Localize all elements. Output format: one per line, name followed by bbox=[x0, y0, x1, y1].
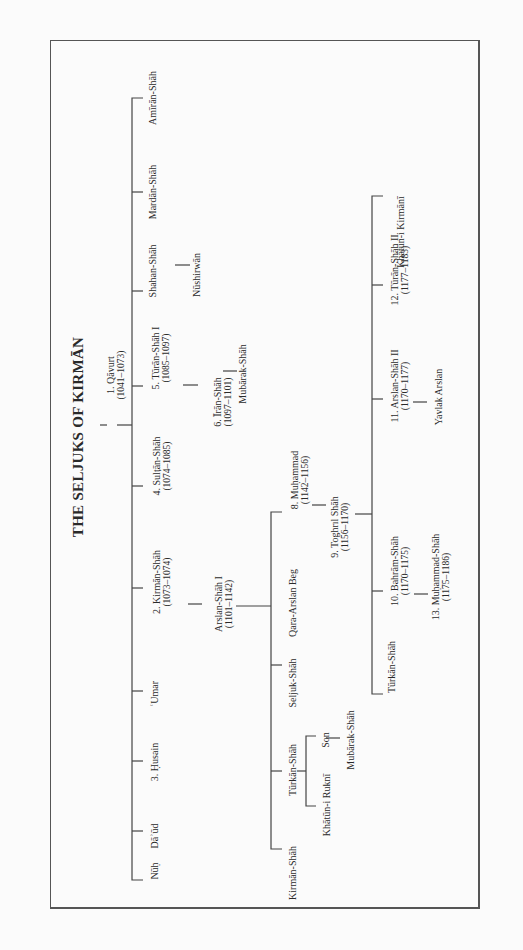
node-dates: (1101–1142) bbox=[224, 576, 235, 632]
node-name: Tūrkān-Shāh bbox=[287, 744, 298, 796]
node-name: Yavlak Arslan bbox=[433, 369, 444, 425]
node-dates: (1170–1177) bbox=[400, 349, 411, 422]
node-dates: (1073–1074) bbox=[162, 550, 173, 614]
node-name: Kirmān-Shāh bbox=[287, 846, 298, 900]
node-name: Khātūn-i Ruknī bbox=[321, 774, 332, 837]
node-dates: (1175–1186) bbox=[441, 534, 452, 621]
node-name: Dāʾūd bbox=[149, 824, 160, 849]
node-name: 9. Toghrıl Shāh bbox=[329, 496, 340, 558]
node-name: Mardān-Shāh bbox=[147, 165, 158, 219]
node-dates: (1085–1097) bbox=[161, 327, 172, 390]
node-name: Qara-Arslan Beg bbox=[287, 569, 298, 637]
node-name: Tūrkān-Shāh bbox=[386, 641, 397, 693]
node-name: Nūshirwān bbox=[191, 253, 202, 297]
node-name: Amīrān-Shāh bbox=[147, 71, 158, 125]
node-name: 10. Bahrām-Shāh bbox=[389, 536, 400, 606]
node-name: 2. Kirmān-Shāh bbox=[151, 550, 162, 614]
node-name: Shahan-Shāh bbox=[147, 245, 158, 298]
node-name: 5. Tūrān-Shāh I bbox=[150, 327, 161, 390]
node-dates: (1170–1175) bbox=[400, 536, 411, 606]
node-dates: (1142–1156) bbox=[300, 451, 311, 509]
node-dates: (1074–1085) bbox=[162, 437, 173, 496]
node-name: Seljuk-Shāh bbox=[287, 659, 298, 708]
node-name: 12. Tūrān-Shāh II bbox=[389, 234, 400, 305]
node-dates: (1177–1183) bbox=[400, 234, 411, 305]
node-name: 4. Sulṭān-Shāh bbox=[151, 437, 162, 496]
node-name: ʿUmar bbox=[149, 681, 160, 707]
node-name: 13. Muḥammad-Shāh bbox=[430, 534, 441, 621]
node-dates: (1097–1101) bbox=[223, 377, 234, 426]
node-name: 3. Ḥusain bbox=[149, 743, 160, 781]
node-name: Son bbox=[320, 732, 331, 748]
node-dates: (1041–1073) bbox=[116, 350, 127, 399]
node-name: Mubārak-Shāh bbox=[237, 344, 248, 403]
node-name: Arslan-Shāh I bbox=[213, 576, 224, 632]
node-name: 8. Muḥammad bbox=[289, 451, 300, 509]
node-dates: (1156–1170) bbox=[340, 496, 351, 558]
node-name: 1. Qāvurt bbox=[105, 356, 116, 394]
node-name: Nūḥ bbox=[149, 862, 160, 879]
node-name: Mubārak-Shāh bbox=[345, 710, 356, 769]
node-name: 11. Arslan-Shāh II bbox=[389, 349, 400, 422]
node-name: 6. Īrān-Shāh bbox=[212, 377, 223, 426]
